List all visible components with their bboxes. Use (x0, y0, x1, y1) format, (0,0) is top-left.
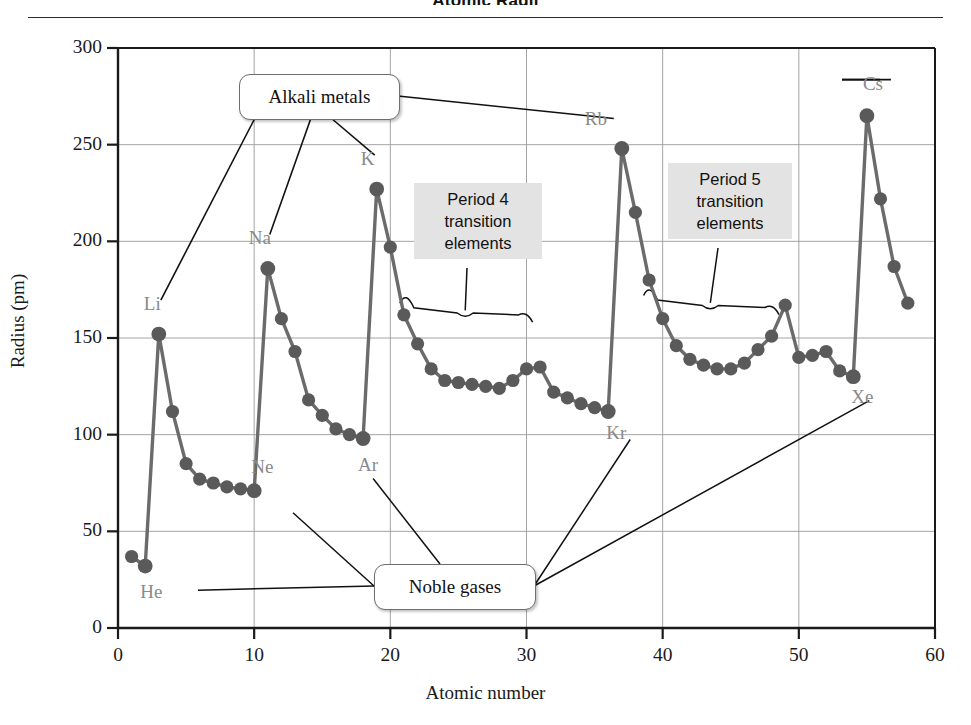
callout-period-4-transition: Period 4 transition elements (414, 183, 542, 259)
x-tick-label: 40 (633, 644, 693, 666)
y-tick-label: 50 (40, 519, 102, 541)
callout-period-5-transition: Period 5 transition elements (668, 163, 792, 239)
axis-ticks (107, 48, 935, 639)
element-label-k: K (361, 148, 375, 170)
element-label-ne: Ne (251, 456, 273, 478)
brace-lines (400, 248, 779, 322)
plot-canvas (0, 0, 971, 725)
y-tick-label: 300 (40, 36, 102, 58)
y-tick-label: 150 (40, 326, 102, 348)
x-tick-label: 60 (905, 644, 965, 666)
gridlines (118, 48, 935, 628)
element-label-li: Li (144, 293, 161, 315)
callout-alkali-metals: Alkali metals (239, 74, 400, 120)
y-axis-title: Radius (pm) (7, 201, 29, 441)
element-label-he: He (140, 581, 162, 603)
atomic-radii-figure: Atomic Radii 050100150200250300010203040… (0, 0, 971, 725)
callout-noble-gases: Noble gases (374, 564, 536, 610)
element-label-kr: Kr (606, 422, 626, 444)
leader-lines (161, 80, 891, 590)
x-tick-label: 50 (769, 644, 829, 666)
element-label-rb: Rb (585, 108, 607, 130)
x-tick-label: 30 (497, 644, 557, 666)
y-tick-label: 200 (40, 229, 102, 251)
x-tick-label: 0 (88, 644, 148, 666)
x-tick-label: 20 (360, 644, 420, 666)
element-label-ar: Ar (358, 454, 378, 476)
x-axis-title: Atomic number (0, 682, 971, 704)
x-tick-label: 10 (224, 644, 284, 666)
element-label-na: Na (249, 227, 271, 249)
element-label-cs: Cs (863, 73, 883, 95)
element-label-xe: Xe (851, 386, 873, 408)
y-tick-label: 250 (40, 133, 102, 155)
y-tick-label: 100 (40, 423, 102, 445)
y-tick-label: 0 (40, 616, 102, 638)
